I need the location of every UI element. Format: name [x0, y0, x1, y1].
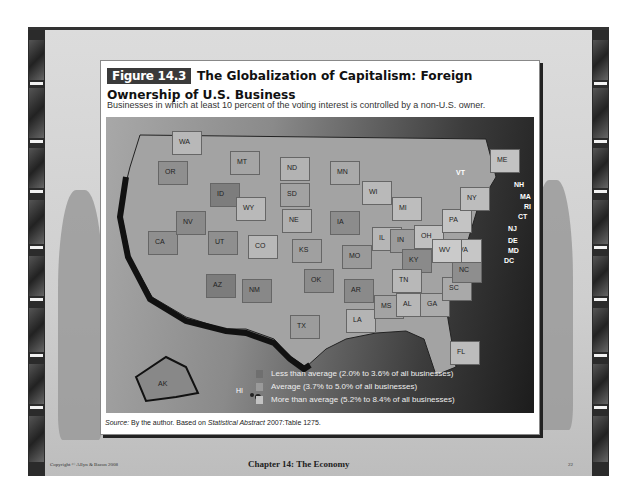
state-sd: SD — [280, 183, 310, 207]
state-label: FL — [457, 348, 465, 355]
state-ks: KS — [292, 239, 322, 263]
state-label: AZ — [213, 281, 222, 288]
state-ia: IA — [330, 211, 360, 235]
state-co: CO — [248, 235, 278, 259]
state-label: ME — [497, 156, 508, 163]
state-label: WA — [179, 138, 190, 145]
state-label: LA — [353, 316, 362, 323]
state-callout-ct: CT — [518, 213, 527, 220]
legend-item: More than average (5.2% to 8.4% of all b… — [256, 393, 455, 406]
state-label: NY — [467, 194, 477, 201]
state-callout-de: DE — [508, 237, 518, 244]
state-label: IA — [337, 218, 344, 225]
state-ok: OK — [304, 269, 334, 293]
state-label-ak: AK — [158, 380, 167, 387]
state-tn: TN — [392, 269, 422, 293]
state-callout-md: MD — [508, 247, 519, 254]
state-callout-nh: NH — [514, 181, 524, 188]
state-label: ID — [217, 190, 224, 197]
state-label: NC — [459, 266, 469, 273]
state-callout-ri: RI — [524, 203, 531, 210]
state-ar: AR — [344, 279, 374, 303]
state-label: UT — [215, 238, 224, 245]
state-pa: PA — [442, 209, 472, 233]
state-label: KY — [409, 256, 418, 263]
state-label: TN — [399, 276, 408, 283]
state-callout-dc: DC — [504, 257, 514, 264]
state-nv: NV — [176, 211, 206, 235]
legend-swatch — [256, 383, 263, 391]
state-ny: NY — [460, 187, 490, 211]
state-label: KS — [299, 246, 308, 253]
copyright-text: Copyright © Allyn & Bacon 2008 — [50, 462, 118, 467]
state-label: TX — [297, 322, 306, 329]
figure-header: Figure 14.3The Globalization of Capitali… — [107, 65, 537, 103]
figure-panel: Figure 14.3The Globalization of Capitali… — [100, 60, 540, 435]
film-strip-right — [592, 30, 609, 476]
state-wv: WV — [432, 239, 462, 263]
state-or: OR — [158, 161, 188, 185]
state-label: PA — [449, 216, 458, 223]
state-label: AR — [351, 286, 361, 293]
legend-swatch — [256, 396, 263, 404]
legend-item: Less than average (2.0% to 3.6% of all b… — [256, 367, 455, 380]
state-wi: WI — [362, 181, 392, 205]
state-label: OH — [421, 232, 432, 239]
state-wa: WA — [172, 131, 202, 155]
state-ne: NE — [282, 209, 312, 233]
state-label-hi: HI — [236, 387, 243, 394]
legend-label: Less than average (2.0% to 3.6% of all b… — [271, 369, 453, 378]
state-tx: TX — [290, 315, 320, 339]
state-label: CA — [155, 238, 165, 245]
state-label: GA — [427, 300, 437, 307]
state-label: MN — [337, 168, 348, 175]
source-note: Source: By the author. Based on Statisti… — [105, 419, 321, 426]
state-labels: WAORCAIDNVMTWYUTCOAZNMNDSDNEKSOKTXMNIAMO… — [136, 125, 481, 350]
state-label: WI — [369, 188, 378, 195]
legend-label: Average (3.7% to 5.0% of all businesses) — [271, 382, 417, 391]
state-wy: WY — [236, 197, 266, 221]
figure-badge: Figure 14.3 — [107, 68, 191, 84]
state-label: WV — [439, 246, 450, 253]
state-label: SD — [287, 190, 297, 197]
state-nm: NM — [242, 279, 272, 303]
figure-subtitle: Businesses in which at least 10 percent … — [107, 100, 485, 110]
state-label: SC — [449, 284, 459, 291]
state-nd: ND — [280, 157, 310, 181]
state-fl: FL — [450, 341, 480, 365]
state-mo: MO — [342, 245, 372, 269]
state-label: ND — [287, 164, 297, 171]
state-label: NM — [249, 286, 260, 293]
state-label: MT — [237, 158, 247, 165]
state-mi: MI — [392, 197, 422, 221]
state-ut: UT — [208, 231, 238, 255]
state-label: IN — [397, 236, 404, 243]
state-label: MI — [399, 204, 407, 211]
state-mn: MN — [330, 161, 360, 185]
state-label: OR — [165, 168, 176, 175]
state-label: AL — [403, 300, 412, 307]
state-label: MS — [381, 302, 392, 309]
state-callout-ma: MA — [520, 193, 531, 200]
legend-swatch — [256, 370, 263, 378]
state-me: ME — [490, 149, 520, 173]
legend-label: More than average (5.2% to 8.4% of all b… — [271, 395, 455, 404]
state-label: WY — [243, 204, 254, 211]
state-az: AZ — [206, 274, 236, 298]
state-label: MO — [349, 252, 360, 259]
state-ca: CA — [148, 231, 178, 255]
map-legend: Less than average (2.0% to 3.6% of all b… — [256, 367, 455, 406]
person-silhouette-left — [58, 190, 103, 440]
slide: Figure 14.3The Globalization of Capitali… — [28, 27, 609, 476]
legend-item: Average (3.7% to 5.0% of all businesses) — [256, 380, 455, 393]
state-mt: MT — [230, 151, 260, 175]
state-callout-vt: VT — [456, 169, 465, 176]
slide-number: 22 — [568, 462, 573, 467]
state-callout-nj: NJ — [508, 225, 517, 232]
state-la: LA — [346, 309, 376, 333]
us-map: WAORCAIDNVMTWYUTCOAZNMNDSDNEKSOKTXMNIAMO… — [106, 117, 534, 413]
chapter-title: Chapter 14: The Economy — [248, 459, 349, 469]
state-label: CO — [255, 242, 266, 249]
state-label: NV — [183, 218, 193, 225]
state-label: IL — [379, 234, 385, 241]
